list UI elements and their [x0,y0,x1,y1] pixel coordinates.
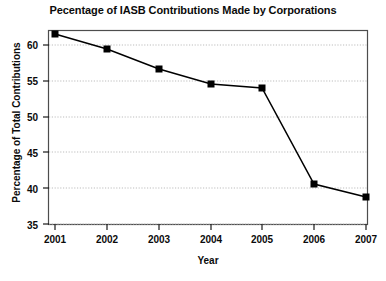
data-point-2003 [156,66,163,73]
plot-area [0,0,386,281]
data-point-2002 [104,46,111,53]
data-point-2005 [259,85,266,92]
data-point-2006 [311,181,318,188]
data-point-2004 [208,81,215,88]
data-point-2007 [363,194,370,201]
data-point-2001 [52,31,59,38]
plot-frame [49,31,368,225]
chart-figure: Pecentage of IASB Contributions Made by … [0,0,386,281]
